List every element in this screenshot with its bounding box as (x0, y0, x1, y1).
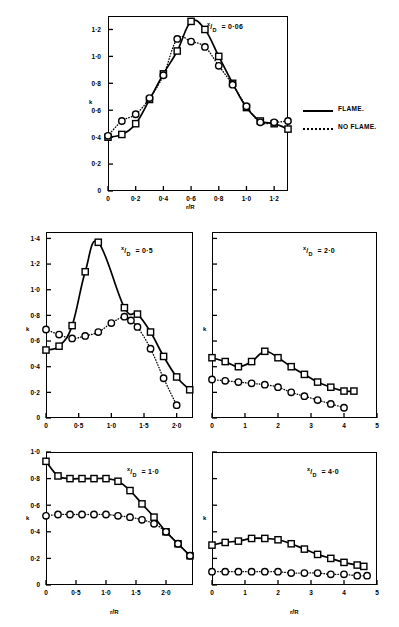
data-marker-square-flame (262, 348, 268, 354)
data-marker-circle-no-flame (128, 317, 134, 323)
data-marker-square-flame (288, 364, 294, 370)
data-marker-square-flame (249, 535, 255, 541)
data-marker-square-flame (147, 329, 153, 335)
y-tick-label: 1·0 (31, 448, 41, 455)
data-marker-square-flame (275, 355, 281, 361)
axis-label-x: r/R (290, 608, 299, 615)
y-tick-label: 0·6 (31, 502, 41, 509)
x-tick-label: 4 (342, 422, 346, 429)
y-tick-label: 1·2 (92, 26, 102, 33)
y-tick-label: 0·8 (92, 80, 102, 87)
series-line-flame (46, 241, 190, 390)
y-tick-label: 0·8 (31, 312, 41, 319)
axis-label-y: k (26, 515, 29, 521)
data-marker-circle-no-flame (275, 384, 281, 390)
data-marker-circle-no-flame (119, 118, 125, 124)
data-marker-circle-no-flame (134, 324, 140, 330)
panel-annotation-xd: x/D = 0·5 (121, 245, 153, 257)
data-marker-square-flame (67, 476, 73, 482)
data-marker-circle-no-flame (95, 329, 101, 335)
data-marker-circle-no-flame (235, 379, 241, 385)
data-marker-circle-no-flame (262, 381, 268, 387)
panel-annotation-xd: x/D = 0·06 (207, 21, 243, 33)
data-marker-circle-no-flame (105, 133, 111, 139)
x-tick-label: 1·0 (242, 195, 252, 202)
x-tick-label: 0 (44, 422, 48, 429)
y-tick-label: 1·0 (92, 53, 102, 60)
data-marker-circle-no-flame (188, 38, 194, 44)
data-marker-circle-no-flame (173, 402, 179, 408)
data-marker-square-flame (235, 538, 241, 544)
data-marker-circle-no-flame (115, 513, 121, 519)
y-tick-label: 0 (36, 581, 40, 588)
data-marker-circle-no-flame (341, 405, 347, 411)
data-marker-circle-no-flame (262, 569, 268, 575)
data-marker-circle-no-flame (222, 569, 228, 575)
data-marker-circle-no-flame (341, 571, 347, 577)
data-marker-circle-no-flame (127, 514, 133, 520)
x-tick-label: 5 (375, 589, 379, 596)
data-marker-square-flame (288, 541, 294, 547)
data-marker-square-flame (275, 537, 281, 543)
data-marker-square-flame (91, 476, 97, 482)
data-marker-circle-no-flame (187, 553, 193, 559)
data-marker-circle-no-flame (56, 331, 62, 337)
data-marker-square-flame (301, 546, 307, 552)
y-tick-label: 0·4 (31, 363, 41, 370)
data-marker-circle-no-flame (160, 72, 166, 78)
data-marker-circle-no-flame (288, 389, 294, 395)
data-marker-circle-no-flame (151, 521, 157, 527)
legend-label-no-flame: NO FLAME. (338, 123, 376, 130)
data-marker-circle-no-flame (132, 111, 138, 117)
data-marker-square-flame (121, 305, 127, 311)
x-tick-label: 1·0 (107, 422, 117, 429)
data-marker-square-flame (315, 379, 321, 385)
data-marker-square-flame (43, 458, 49, 464)
data-marker-circle-no-flame (235, 569, 241, 575)
data-marker-square-flame (119, 131, 125, 137)
data-marker-square-flame (133, 121, 139, 127)
data-marker-square-flame (262, 535, 268, 541)
data-marker-circle-no-flame (285, 118, 291, 124)
x-tick-label: 1·5 (131, 589, 141, 596)
data-marker-square-flame (216, 53, 222, 59)
chart-panel-xd-1-0: 00·51·01·52·000·20·40·60·81·0 k r/R x/D … (0, 440, 200, 627)
data-marker-circle-no-flame (243, 103, 249, 109)
x-tick-label: 0·6 (186, 195, 196, 202)
x-tick-label: 2·0 (172, 422, 182, 429)
x-tick-label: 0·5 (71, 589, 81, 596)
x-tick-label: 1·0 (101, 589, 111, 596)
data-marker-circle-no-flame (314, 397, 320, 403)
data-marker-square-flame (315, 551, 321, 557)
data-marker-square-flame (82, 269, 88, 275)
y-tick-label: 0·2 (31, 555, 41, 562)
x-tick-label: 1 (243, 422, 247, 429)
data-marker-circle-no-flame (275, 569, 281, 575)
data-marker-square-flame (161, 353, 167, 359)
y-tick-label: 1·0 (31, 286, 41, 293)
data-marker-square-flame (328, 384, 334, 390)
data-marker-circle-no-flame (146, 95, 152, 101)
data-marker-circle-no-flame (209, 376, 215, 382)
x-tick-label: 1·5 (139, 422, 149, 429)
x-tick-label: 1 (243, 589, 247, 596)
data-marker-circle-no-flame (121, 313, 127, 319)
data-marker-circle-no-flame (314, 570, 320, 576)
x-tick-label: 0·2 (131, 195, 141, 202)
panel-annotation-xd: x/D = 1·0 (127, 466, 159, 478)
y-tick-label: 0·6 (31, 337, 41, 344)
axis-label-y: k (26, 326, 29, 332)
chart-legend: FLAME. NO FLAME. (300, 102, 399, 142)
data-marker-circle-no-flame (79, 511, 85, 517)
data-marker-circle-no-flame (364, 572, 370, 578)
y-tick-label: 1·4 (31, 235, 41, 242)
data-marker-circle-no-flame (257, 119, 263, 125)
data-marker-circle-no-flame (216, 63, 222, 69)
y-tick-label: 0 (97, 187, 101, 194)
data-marker-square-flame (351, 388, 357, 394)
x-tick-label: 0 (210, 589, 214, 596)
panel-annotation-xd: x/D = 2·0 (303, 245, 335, 257)
data-marker-square-flame (328, 555, 334, 561)
data-marker-square-flame (134, 311, 140, 317)
chart-panel-xd-4-0: 012345 k r/R x/D = 4·0 (200, 440, 399, 627)
